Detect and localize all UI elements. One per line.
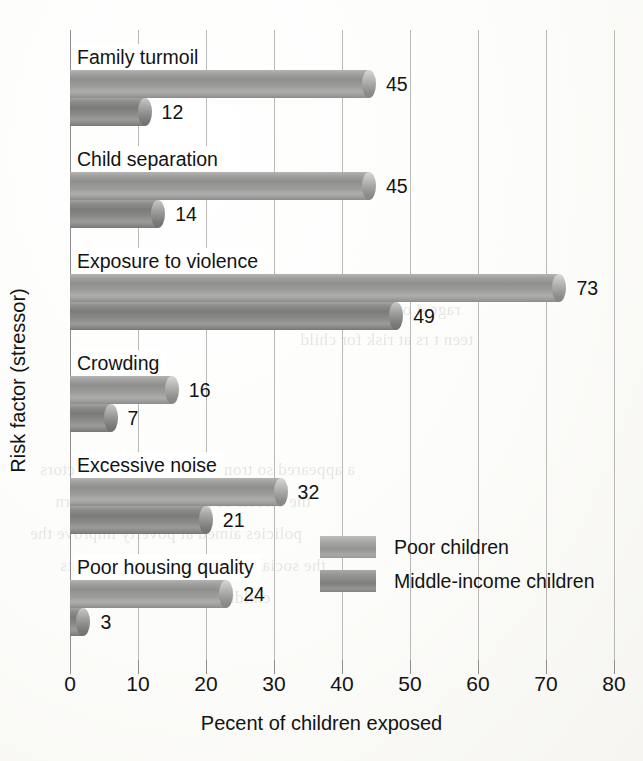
category-label: Crowding — [74, 350, 166, 376]
bar-body — [70, 200, 158, 228]
x-tick-label: 0 — [64, 672, 76, 696]
y-axis-label: Risk factor (stressor) — [0, 0, 40, 761]
bar-value-label: 21 — [223, 506, 245, 534]
bar-end-cap — [389, 302, 403, 330]
x-axis-label: Pecent of children exposed — [0, 712, 643, 735]
x-tick-label: 60 — [466, 672, 489, 696]
bar[interactable] — [70, 478, 288, 506]
x-tick-label: 70 — [534, 672, 557, 696]
legend-item[interactable]: Poor children — [320, 530, 595, 564]
bar-value-label: 3 — [100, 608, 111, 636]
bar-row: 16 — [70, 376, 614, 404]
bar-row: 45 — [70, 172, 614, 200]
bar-value-label: 45 — [386, 70, 408, 98]
x-tick-label: 30 — [262, 672, 285, 696]
bar[interactable] — [70, 580, 233, 608]
bar-end-cap — [76, 608, 90, 636]
bar-end-cap — [552, 274, 566, 302]
bar[interactable] — [70, 274, 566, 302]
x-tick-label: 80 — [602, 672, 625, 696]
bar-row: 14 — [70, 200, 614, 228]
legend: Poor childrenMiddle-income children — [320, 530, 595, 598]
legend-label: Poor children — [394, 536, 509, 559]
bar-body — [70, 478, 281, 506]
bar-end-cap — [362, 70, 376, 98]
bar-group: Family turmoil4512 — [70, 44, 643, 126]
category-label: Family turmoil — [74, 44, 205, 70]
bar-value-label: 45 — [386, 172, 408, 200]
x-tick-label: 10 — [126, 672, 149, 696]
bar-body — [70, 376, 172, 404]
bar-value-label: 7 — [128, 404, 139, 432]
bar-value-label: 32 — [298, 478, 320, 506]
bar-body — [70, 302, 396, 330]
bar-group: Excessive noise3221 — [70, 452, 643, 534]
bar-group: Child separation4514 — [70, 146, 643, 228]
bar-end-cap — [362, 172, 376, 200]
bar-value-label: 12 — [162, 98, 184, 126]
bar-row: 7 — [70, 404, 614, 432]
bar-row: 12 — [70, 98, 614, 126]
bar-end-cap — [219, 580, 233, 608]
bar-value-label: 73 — [576, 274, 598, 302]
bar[interactable] — [70, 302, 403, 330]
category-label: Exposure to violence — [74, 248, 265, 274]
bar-value-label: 14 — [175, 200, 197, 228]
bar-end-cap — [165, 376, 179, 404]
x-tick-label: 20 — [194, 672, 217, 696]
bar-body — [70, 70, 369, 98]
bar[interactable] — [70, 404, 118, 432]
category-label: Excessive noise — [74, 452, 224, 478]
x-tick-label: 50 — [398, 672, 421, 696]
bar-group: Exposure to violence7349 — [70, 248, 643, 330]
x-tick-label: 40 — [330, 672, 353, 696]
bar-body — [70, 506, 206, 534]
category-label: Poor housing quality — [74, 554, 261, 580]
legend-swatch — [320, 536, 376, 558]
legend-item[interactable]: Middle-income children — [320, 564, 595, 598]
category-label: Child separation — [74, 146, 225, 172]
bar-end-cap — [104, 404, 118, 432]
bar-body — [70, 580, 226, 608]
x-axis-tick-labels: 01020304050607080 — [0, 672, 643, 702]
bar-end-cap — [199, 506, 213, 534]
bar-body — [70, 172, 369, 200]
bar-group: Crowding167 — [70, 350, 643, 432]
bar-value-label: 16 — [189, 376, 211, 404]
bar-value-label: 49 — [413, 302, 435, 330]
bar-body — [70, 98, 145, 126]
figure-container: rage 4 over 1971 . teen t rs at risk for… — [0, 0, 643, 761]
plot-area: Family turmoil4512Child separation4514Ex… — [70, 30, 614, 660]
bar[interactable] — [70, 172, 376, 200]
legend-swatch — [320, 570, 376, 592]
bar-end-cap — [151, 200, 165, 228]
bar[interactable] — [70, 608, 90, 636]
bar[interactable] — [70, 376, 179, 404]
bar-row: 32 — [70, 478, 614, 506]
bar-row: 45 — [70, 70, 614, 98]
bar-value-label: 24 — [243, 580, 265, 608]
bar-row: 49 — [70, 302, 614, 330]
bar-end-cap — [274, 478, 288, 506]
bar[interactable] — [70, 506, 213, 534]
bar-row: 73 — [70, 274, 614, 302]
bar-body — [70, 274, 559, 302]
bar[interactable] — [70, 98, 152, 126]
bar[interactable] — [70, 200, 165, 228]
bar[interactable] — [70, 70, 376, 98]
legend-label: Middle-income children — [394, 570, 595, 593]
bar-end-cap — [138, 98, 152, 126]
bar-row: 3 — [70, 608, 614, 636]
